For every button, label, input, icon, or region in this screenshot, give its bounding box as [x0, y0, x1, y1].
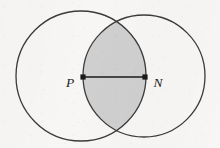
geometry-diagram: P N	[0, 0, 220, 148]
figure-container: P N	[0, 0, 220, 148]
point-label-N: N	[152, 75, 163, 90]
point-label-P: P	[65, 75, 74, 90]
point-marker-N	[142, 74, 147, 79]
point-marker-P	[80, 74, 85, 79]
